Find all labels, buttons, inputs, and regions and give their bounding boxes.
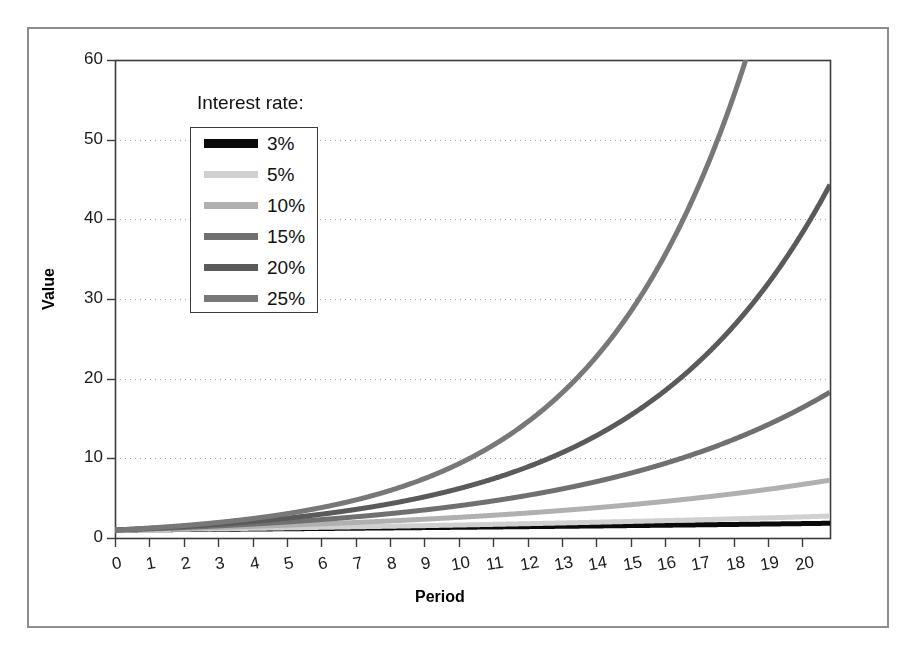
legend-label: 3% [267,134,294,153]
legend-item-15pct[interactable]: 15% [191,221,317,252]
y-tick-label: 50 [57,129,103,149]
legend-item-25pct[interactable]: 25% [191,283,317,314]
y-axis-title: Value [40,254,58,324]
legend-swatch-20pct [204,264,258,271]
x-axis-title: Period [415,588,465,606]
legend-label: 5% [267,165,294,184]
legend-label: 25% [267,289,305,308]
legend-label: 20% [267,258,305,277]
legend-item-10pct[interactable]: 10% [191,190,317,221]
y-tick-label: 30 [57,288,103,308]
y-tick-label: 20 [57,368,103,388]
legend-swatch-10pct [204,202,258,209]
legend-label: 15% [267,227,305,246]
legend-label: 10% [267,196,305,215]
legend-title: Interest rate: [197,92,304,114]
legend-item-3pct[interactable]: 3% [191,128,317,159]
legend-swatch-25pct [204,295,258,302]
legend-item-20pct[interactable]: 20% [191,252,317,283]
legend-box: 3%5%10%15%20%25% [190,127,318,313]
y-tick-label: 60 [57,49,103,69]
y-tick-label: 40 [57,208,103,228]
legend-swatch-3pct [204,139,258,148]
legend-swatch-15pct [204,233,258,240]
y-tick-label: 10 [57,447,103,467]
y-tick-label: 0 [57,527,103,547]
legend-swatch-5pct [204,171,258,178]
legend-item-5pct[interactable]: 5% [191,159,317,190]
